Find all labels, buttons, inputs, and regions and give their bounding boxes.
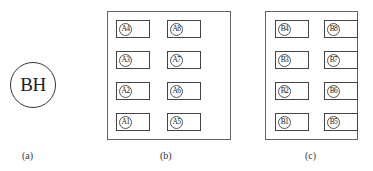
slot-label-badge: B7: [327, 54, 340, 67]
panel-b-slot: A3: [116, 51, 150, 69]
slot-label-badge: B6: [327, 85, 340, 98]
slot-label-badge: A3: [119, 54, 132, 67]
panel-c-slot: B1: [275, 113, 309, 131]
panel-b-slot: A4: [116, 20, 150, 38]
slot-label-badge: B8: [327, 23, 340, 36]
caption-a: (a): [22, 150, 33, 161]
panel-b-slot: A6: [167, 82, 201, 100]
panel-c-slot: B5: [324, 113, 358, 131]
panel-b-slot: A5: [167, 113, 201, 131]
slot-label-badge: A4: [119, 23, 132, 36]
slot-label-badge: B1: [278, 116, 291, 129]
slot-label-badge: A5: [170, 116, 183, 129]
panel-c-slot: B7: [324, 51, 358, 69]
panel-b-slot: A7: [167, 51, 201, 69]
slot-label-badge: B5: [327, 116, 340, 129]
panel-b-slot: A1: [116, 113, 150, 131]
slot-label-badge: B3: [278, 54, 291, 67]
slot-label-badge: A2: [119, 85, 132, 98]
panel-c-slot: B3: [275, 51, 309, 69]
caption-b: (b): [160, 150, 172, 161]
panel-c-slot: B8: [324, 20, 358, 38]
panel-c-slot: B6: [324, 82, 358, 100]
panel-b-slot: A8: [167, 20, 201, 38]
panel-b-slot: A2: [116, 82, 150, 100]
slot-label-badge: B2: [278, 85, 291, 98]
caption-c: (c): [305, 150, 316, 161]
bh-symbol: BH: [10, 62, 56, 108]
panel-c-slot: B2: [275, 82, 309, 100]
slot-label-badge: A6: [170, 85, 183, 98]
bh-symbol-label: BH: [20, 74, 45, 96]
slot-label-badge: A7: [170, 54, 183, 67]
slot-label-badge: A8: [170, 23, 183, 36]
slot-label-badge: B4: [278, 23, 291, 36]
panel-c-slot: B4: [275, 20, 309, 38]
slot-label-badge: A1: [119, 116, 132, 129]
